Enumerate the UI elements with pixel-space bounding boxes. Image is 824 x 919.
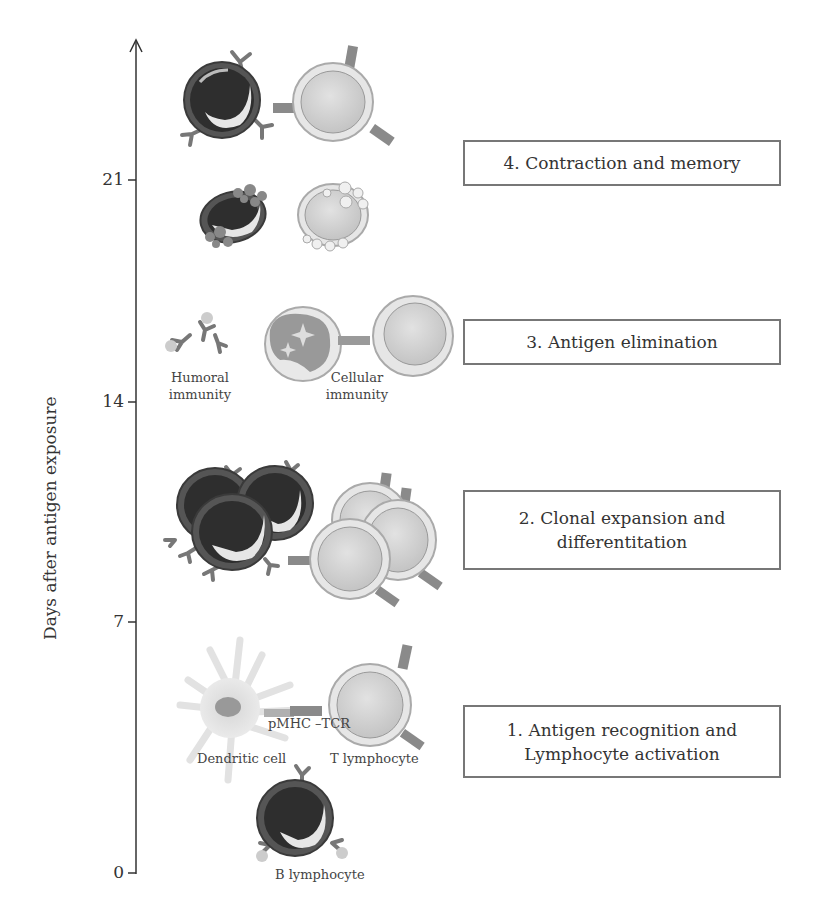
memory-t-cell-icon xyxy=(273,45,395,146)
tick-label-0: 0 xyxy=(84,862,124,882)
stage-2-label-line2: differentitation xyxy=(557,530,687,554)
tick-label-7: 7 xyxy=(84,611,124,631)
stage-1-box: 1. Antigen recognition and Lymphocyte ac… xyxy=(463,705,781,778)
stage-1-label-line2: Lymphocyte activation xyxy=(524,742,719,766)
cellular-immunity-label: Cellular immunity xyxy=(317,369,397,403)
memory-b-cell-icon xyxy=(182,52,272,145)
humoral-immunity-label: Humoral immunity xyxy=(160,369,240,403)
dendritic-cell-label: Dendritic cell xyxy=(197,750,286,767)
stage-2-label-line1: 2. Clonal expansion and xyxy=(519,506,726,530)
t-lymphocyte-icon xyxy=(264,644,425,750)
stage-4-label: 4. Contraction and memory xyxy=(504,151,741,175)
axis-title: Days after antigen exposure xyxy=(40,396,60,640)
apoptotic-t-cell-icon xyxy=(298,182,368,251)
stage-4-box: 4. Contraction and memory xyxy=(463,140,781,186)
tick-label-21: 21 xyxy=(84,169,124,189)
timeline-axis xyxy=(0,0,824,919)
stage-3-label: 3. Antigen elimination xyxy=(526,330,717,354)
stage-1-label-line1: 1. Antigen recognition and xyxy=(507,718,737,742)
stage-3-box: 3. Antigen elimination xyxy=(463,319,781,365)
t-lymphocyte-label: T lymphocyte xyxy=(330,750,419,767)
antibodies-icon xyxy=(165,312,226,352)
pmhc-tcr-label: pMHC –TCR xyxy=(268,715,350,732)
cytotoxic-t-cell-icon xyxy=(338,296,453,376)
stage-2-box: 2. Clonal expansion and differentitation xyxy=(463,490,781,570)
b-lymphocyte-label: B lymphocyte xyxy=(275,866,365,883)
apoptotic-b-cell-icon xyxy=(195,184,272,250)
b-lymphocyte-icon xyxy=(256,766,348,862)
tick-label-14: 14 xyxy=(84,391,124,411)
